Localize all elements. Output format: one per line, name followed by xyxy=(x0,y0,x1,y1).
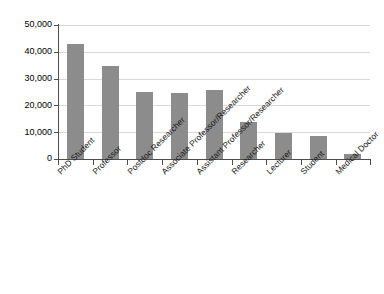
gridline-40000 xyxy=(58,52,370,53)
gridline-50000 xyxy=(58,25,370,26)
x-tick-mark-6 xyxy=(266,160,267,165)
y-tick-label-40000: 40,000 xyxy=(24,47,52,56)
y-tick-label-30000: 30,000 xyxy=(24,74,52,83)
y-tick-mark-3 xyxy=(54,105,59,106)
y-tick-label-50000: 50,000 xyxy=(24,20,52,29)
y-axis-line xyxy=(58,24,59,160)
x-tick-mark-2 xyxy=(127,160,128,165)
y-tick-label-0: 0 xyxy=(47,154,52,163)
y-tick-mark-0 xyxy=(54,25,59,26)
plot-area xyxy=(58,25,370,159)
x-tick-mark-9 xyxy=(370,160,371,165)
y-tick-mark-2 xyxy=(54,79,59,80)
y-tick-label-10000: 10,000 xyxy=(24,128,52,137)
bar-chart: 50,000 40,000 30,000 20,000 10,000 0 PhD… xyxy=(0,0,384,294)
y-tick-mark-1 xyxy=(54,52,59,53)
y-tick-label-20000: 20,000 xyxy=(24,101,52,110)
y-tick-mark-4 xyxy=(54,132,59,133)
